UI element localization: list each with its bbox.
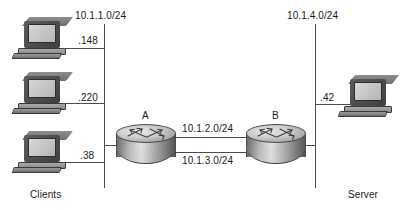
client-1-address-label: .148 [78,35,98,47]
link-10-1-2-0-line [174,137,248,138]
client-2-address-label: .220 [78,92,98,104]
left-lan-label: 10.1.1.0/24 [75,10,126,22]
computer-base-front [338,111,388,117]
computer-base-front [12,167,62,173]
clients-group-label: Clients [30,189,61,201]
router-b-icon [246,124,306,164]
router-arrows-icon [116,124,176,143]
router-arrows-icon [246,124,306,143]
router-a-name-label: A [142,110,149,122]
router-b-name-label: B [272,110,279,122]
router-bottom [116,147,176,164]
monitor-screen [28,79,56,98]
link-10-1-3-0-line [174,152,248,153]
computer-base-front [12,53,62,59]
router-a-icon [116,124,176,164]
link-bottom-label: 10.1.3.0/24 [182,155,233,167]
network-topology-diagram: 10.1.1.0/24 .148 .220 .38 Clients A [0,0,409,210]
left-lan-bus-line [104,24,105,188]
right-lan-bus-line [315,24,316,188]
server-pc-icon [338,75,400,117]
client-1-connector [62,48,104,49]
router-bottom [246,147,306,164]
client-pc-3-icon [12,131,74,173]
right-lan-label: 10.1.4.0/24 [287,10,338,22]
client-pc-2-icon [12,72,74,114]
server-group-label: Server [348,189,378,201]
monitor-screen [354,82,382,101]
monitor-screen [28,138,56,157]
link-top-label: 10.1.2.0/24 [182,123,233,135]
client-3-connector [62,162,104,163]
client-3-address-label: .38 [80,150,94,162]
monitor-screen [28,24,56,43]
computer-base-front [12,108,62,114]
server-address-label: .42 [320,92,334,104]
client-pc-1-icon [12,17,74,59]
